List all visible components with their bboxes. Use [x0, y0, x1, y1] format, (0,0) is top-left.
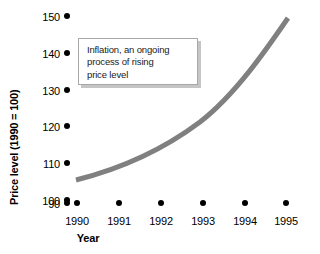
inflation-callout: Inflation, an ongoing process of rising …: [78, 38, 198, 85]
price-level-line-chart: Price level (1990 = 100) 150 140 130 120…: [0, 0, 320, 254]
inflation-callout-text: Inflation, an ongoing process of rising …: [87, 44, 190, 81]
